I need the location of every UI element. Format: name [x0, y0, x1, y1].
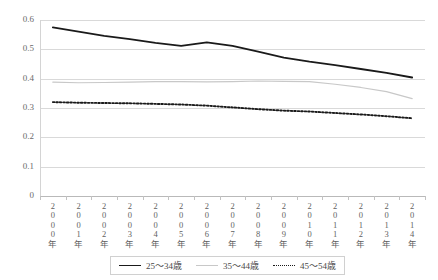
x-tickmark [425, 196, 426, 200]
series-line-3 [53, 102, 412, 118]
y-tick-label: 0.2 [0, 132, 34, 141]
y-tick-label: 0.5 [0, 44, 34, 53]
gridline [40, 79, 425, 80]
x-tickmark [374, 196, 375, 200]
y-axis-line [40, 20, 41, 196]
gridline [40, 20, 425, 21]
y-tick-label: 0.4 [0, 74, 34, 83]
x-tickmark [271, 196, 272, 200]
x-tickmark [168, 196, 169, 200]
x-tick-label: 2009年 [277, 202, 291, 249]
x-tick-label: 2007年 [226, 202, 240, 249]
x-tickmark [66, 196, 67, 200]
legend-item[interactable]: 45～54歳 [273, 261, 336, 271]
x-axis-line [40, 196, 425, 197]
x-tick-label: 2008年 [251, 202, 265, 249]
x-tickmark [245, 196, 246, 200]
legend-swatch-line-icon [119, 265, 141, 266]
x-tick-label: 2002年 [97, 202, 111, 249]
x-tick-label: 2003年 [123, 202, 137, 249]
legend-label: 35～44歳 [223, 261, 259, 271]
legend-item[interactable]: 35～44歳 [196, 261, 259, 271]
chart-legend: 25～34歳35～44歳45～54歳 [110, 256, 345, 275]
legend-item[interactable]: 25～34歳 [119, 261, 182, 271]
x-tick-label: 2004年 [149, 202, 163, 249]
line-chart: 00.10.20.30.40.50.6 2000年2001年2002年2003年… [0, 0, 438, 280]
legend-swatch-line-icon [196, 265, 218, 266]
x-tickmark [194, 196, 195, 200]
y-tick-label: 0.3 [0, 103, 34, 112]
y-tick-label: 0 [0, 191, 34, 200]
x-tick-label: 2011年 [328, 202, 342, 249]
x-tick-label: 2010年 [303, 202, 317, 249]
x-tickmark [322, 196, 323, 200]
legend-swatch-line-icon [273, 265, 295, 266]
legend-label: 25～34歳 [146, 261, 182, 271]
x-tick-label: 2014年 [405, 202, 419, 249]
x-tickmark [143, 196, 144, 200]
gridline [40, 108, 425, 109]
x-tick-label: 2001年 [72, 202, 86, 249]
gridline [40, 167, 425, 168]
x-tickmark [220, 196, 221, 200]
x-tick-label: 2012年 [354, 202, 368, 249]
gridline [40, 137, 425, 138]
legend-label: 45～54歳 [300, 261, 336, 271]
y-tick-label: 0.6 [0, 15, 34, 24]
series-line-1 [53, 27, 412, 77]
x-tickmark [117, 196, 118, 200]
x-tickmark [348, 196, 349, 200]
series-layer [0, 0, 438, 280]
gridline [40, 49, 425, 50]
series-line-2 [53, 81, 412, 99]
x-tick-label: 2006年 [200, 202, 214, 249]
x-tickmark [40, 196, 41, 200]
x-tickmark [91, 196, 92, 200]
y-tick-label: 0.1 [0, 162, 34, 171]
x-tick-label: 2005年 [174, 202, 188, 249]
x-tick-label: 2013年 [380, 202, 394, 249]
x-tickmark [399, 196, 400, 200]
x-tickmark [297, 196, 298, 200]
x-tick-label: 2000年 [46, 202, 60, 249]
